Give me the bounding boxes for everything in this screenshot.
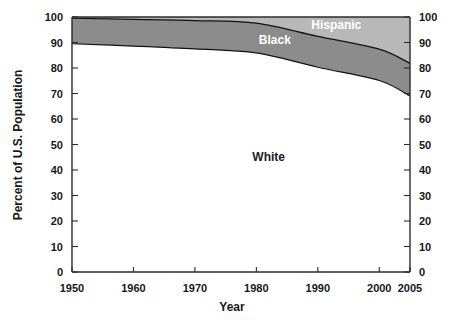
x-tick-label: 2005 [398, 282, 422, 294]
right-tick-label: 30 [419, 190, 431, 202]
left-tick-label: 10 [51, 241, 63, 253]
y-axis-title: Percent of U.S. Population [11, 70, 25, 221]
right-tick-label: 40 [419, 164, 431, 176]
left-tick-label: 20 [51, 215, 63, 227]
x-tick-label: 2000 [367, 282, 391, 294]
x-tick-label: 1970 [183, 282, 207, 294]
right-tick-label: 50 [419, 139, 431, 151]
right-tick-label: 0 [419, 266, 425, 278]
area-white [72, 44, 410, 272]
x-tick-label: 1980 [244, 282, 268, 294]
area-series-group [72, 17, 410, 272]
x-tick-label: 1990 [306, 282, 330, 294]
chart-container: 0102030405060708090100 01020304050607080… [0, 0, 461, 320]
left-tick-label: 40 [51, 164, 63, 176]
right-tick-label: 10 [419, 241, 431, 253]
left-tick-label: 80 [51, 62, 63, 74]
right-tick-label: 80 [419, 62, 431, 74]
x-axis-title: Year [219, 300, 245, 314]
left-tick-label: 60 [51, 113, 63, 125]
left-tick-label: 50 [51, 139, 63, 151]
x-tick-label: 1960 [121, 282, 145, 294]
series-label-hispanic: Hispanic [311, 18, 361, 32]
left-tick-label: 90 [51, 37, 63, 49]
stacked-area-chart: 0102030405060708090100 01020304050607080… [0, 0, 461, 320]
x-tick-label: 1950 [60, 282, 84, 294]
right-tick-label: 70 [419, 88, 431, 100]
right-tick-label: 90 [419, 37, 431, 49]
left-tick-label: 30 [51, 190, 63, 202]
series-label-black: Black [259, 33, 291, 47]
left-tick-label: 100 [45, 11, 63, 23]
series-label-white: White [252, 150, 285, 164]
right-tick-label: 100 [419, 11, 437, 23]
right-tick-label: 60 [419, 113, 431, 125]
left-tick-label: 0 [57, 266, 63, 278]
left-tick-label: 70 [51, 88, 63, 100]
right-tick-label: 20 [419, 215, 431, 227]
